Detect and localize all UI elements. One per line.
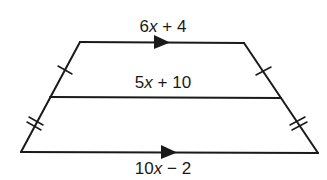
label-midsegment: 5x + 10 <box>135 73 191 92</box>
tick-right-upper <box>256 67 271 75</box>
parallel-arrow-top-icon <box>154 35 170 49</box>
parallel-arrow-bottom-icon <box>161 145 177 159</box>
trapezoid-diagram: 6x + 4 5x + 10 10x − 2 <box>0 0 327 180</box>
tick-left-upper <box>58 66 72 74</box>
label-bottom-base: 10x − 2 <box>135 159 191 178</box>
midsegment <box>50 97 281 98</box>
label-top-base: 6x + 4 <box>140 17 187 36</box>
